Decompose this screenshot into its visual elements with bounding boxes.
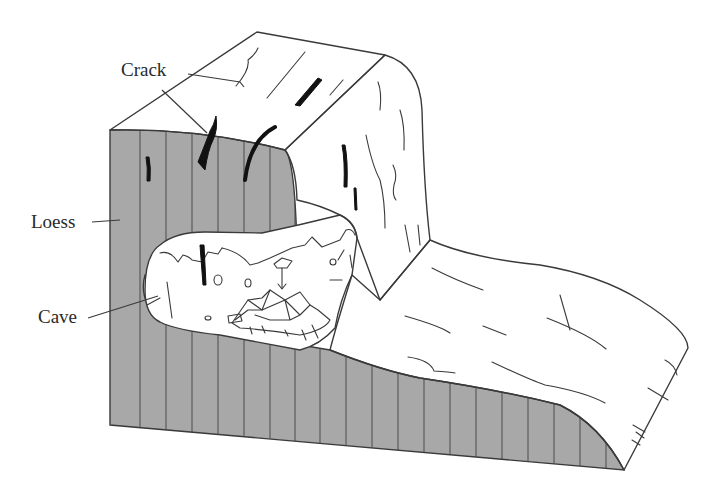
- loess-cave-diagram: Crack Loess Cave: [0, 0, 719, 498]
- crack-leader-1: [188, 74, 244, 87]
- label-cave: Cave: [38, 306, 77, 327]
- crack-leader-2: [162, 90, 207, 133]
- label-loess: Loess: [31, 211, 75, 232]
- cliff-fissures: [366, 82, 420, 252]
- label-crack: Crack: [121, 59, 167, 80]
